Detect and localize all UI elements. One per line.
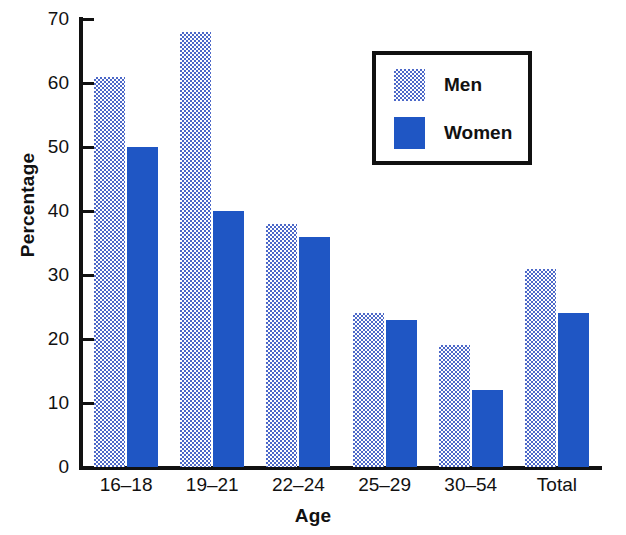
bar-women-22–24 <box>299 237 330 467</box>
legend-label-men: Men <box>444 74 482 96</box>
bar-men-22–24 <box>266 224 297 467</box>
bar-men-30–54 <box>439 345 470 467</box>
legend: Men Women <box>372 51 532 165</box>
bar-women-30–54 <box>472 390 503 467</box>
y-tick-label: 30 <box>29 265 69 284</box>
bar-women-19–21 <box>213 211 244 467</box>
bar-group <box>180 19 244 467</box>
bar-group <box>525 19 589 467</box>
bar-group <box>266 19 330 467</box>
bar-chart: Percentage 010203040506070 16–1819–2122–… <box>0 0 626 535</box>
legend-swatch-women-icon <box>394 117 425 149</box>
legend-swatch-men-icon <box>394 69 425 101</box>
bar-group <box>94 19 158 467</box>
bar-men-Total <box>525 269 556 467</box>
y-tick-label: 40 <box>29 201 69 220</box>
bar-men-25–29 <box>353 313 384 467</box>
bar-women-25–29 <box>386 320 417 467</box>
y-tick-label: 20 <box>29 329 69 348</box>
x-axis-title: Age <box>0 505 626 527</box>
legend-label-women: Women <box>444 122 512 144</box>
y-tick-label: 10 <box>29 393 69 412</box>
bar-men-16–18 <box>94 77 125 467</box>
y-tick-label: 70 <box>29 9 69 28</box>
bar-men-19–21 <box>180 32 211 467</box>
x-tick-label: Total <box>497 474 617 496</box>
y-tick-label: 0 <box>29 457 69 476</box>
y-tick-label: 50 <box>29 137 69 156</box>
y-tick-label: 60 <box>29 73 69 92</box>
bar-women-Total <box>558 313 589 467</box>
bar-women-16–18 <box>127 147 158 467</box>
